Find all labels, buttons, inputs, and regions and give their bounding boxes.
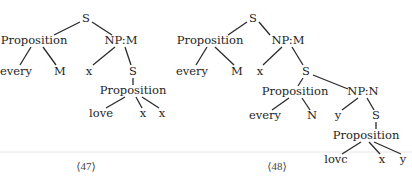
tree-node: x [379,154,386,166]
tree-node: every [249,110,281,122]
tree-node: lovc [324,154,348,166]
tree-edge [292,47,303,65]
tree-edge [196,47,207,65]
tree-node: NP:N [347,86,378,98]
tree-node: y [335,110,342,122]
tree-edge [342,98,358,110]
tree-node: x [86,66,93,78]
tree-node: y [400,154,407,166]
tree-edge [263,47,282,65]
tree-node: x [159,108,166,120]
tree-node: Proposition [333,130,400,142]
tree-edge [215,47,234,65]
tree-node: every [0,66,32,78]
tree-node: S [82,13,90,25]
tree-node: S [302,66,310,78]
tree-edge [20,47,31,65]
tree-node: Proposition [100,85,167,97]
tree-node: NP:M [104,35,137,47]
tree-node: every [176,66,208,78]
tree-node: NP:M [271,35,304,47]
tree-node: Proposition [1,35,68,47]
tree-node: N [307,110,317,122]
tree-node: M [231,66,243,78]
tree-node: x [257,66,264,78]
tree-edge [125,47,131,65]
figure-caption: ⟨47⟩ [76,160,96,173]
figure-caption: ⟨48⟩ [267,160,287,173]
tree-node: Proposition [177,35,244,47]
tree-node: S [372,110,380,122]
syntax-tree-figure: SPropositionNP:MeveryMxSPropositionlovex… [0,0,412,180]
tree-node: Proposition [262,86,329,98]
tree-edge [259,22,270,35]
tree-node: love [89,108,113,120]
tree-node: S [129,66,137,78]
tree-node: x [140,108,147,120]
tree-edge [93,47,115,65]
tree-node: M [54,66,66,78]
tree-edge [43,47,56,65]
tree-node: S [249,13,257,25]
